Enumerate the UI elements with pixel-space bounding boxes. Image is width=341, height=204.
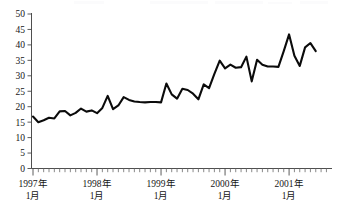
y-tick-label-35: 35 [16,56,26,66]
line-chart: 05101520253035404550 1997年1月1998年1月1999年… [0,0,341,204]
chart-background [0,0,341,204]
edge-artifact [268,2,292,4]
x-tick-label-1997年: 1997年 [19,178,48,189]
x-tick-label-2000年: 2000年 [211,178,240,189]
y-tick-label-5: 5 [20,148,25,158]
edge-artifact [215,1,263,4]
edge-artifact [74,1,104,4]
y-tick-label-0: 0 [20,164,25,174]
edge-artifact [150,1,208,4]
x-tick-sublabel-1999年: 1月 [154,191,169,201]
x-tick-sublabel-1998年: 1月 [90,191,105,201]
y-tick-label-45: 45 [16,25,26,35]
chart-canvas: 05101520253035404550 1997年1月1998年1月1999年… [0,0,341,204]
y-tick-label-15: 15 [16,118,26,128]
y-tick-label-20: 20 [16,102,26,112]
y-tick-label-25: 25 [16,87,26,97]
y-tick-label-30: 30 [16,71,26,81]
x-tick-label-1999年: 1999年 [147,178,176,189]
x-tick-label-1998年: 1998年 [83,178,112,189]
x-tick-sublabel-2001年: 1月 [282,191,297,201]
y-tick-label-40: 40 [16,40,26,50]
y-tick-label-50: 50 [16,9,26,19]
x-tick-sublabel-1997年: 1月 [26,191,41,201]
x-tick-sublabel-2000年: 1月 [218,191,233,201]
edge-artifact [300,1,328,4]
y-tick-label-10: 10 [16,133,26,143]
x-tick-label-2001年: 2001年 [275,178,304,189]
